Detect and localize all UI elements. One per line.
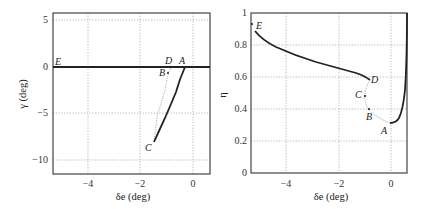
left-xlabel: δe (deg) <box>116 191 151 203</box>
right-point-c-marker <box>364 95 366 97</box>
right-xtick-neg2: −2 <box>334 178 345 189</box>
right-point-b-marker <box>368 108 370 110</box>
right-series-a-upper-branch <box>390 13 407 123</box>
right-xtick-0: 0 <box>389 178 394 189</box>
right-ylabel: η <box>217 92 228 98</box>
left-xtick-neg4: −4 <box>83 178 94 189</box>
left-label-b: B <box>159 67 165 78</box>
left-ytick-neg5: −5 <box>37 107 48 118</box>
left-ylabel: γ (deg) <box>17 79 29 110</box>
left-series-a-c-branch <box>154 67 185 142</box>
right-ytick-0-6: 0.6 <box>235 71 248 82</box>
right-point-e-marker <box>251 23 253 25</box>
left-xtick-neg2: −2 <box>135 178 146 189</box>
left-label-c: C <box>145 142 152 153</box>
right-ytick-0-4: 0.4 <box>235 103 248 114</box>
right-ytick-0-8: 0.8 <box>235 39 248 50</box>
right-label-d: D <box>370 74 379 85</box>
left-point-d-marker <box>170 66 173 69</box>
left-grid <box>53 13 210 174</box>
left-label-e: E <box>54 56 61 67</box>
right-xtick-neg4: −4 <box>281 178 292 189</box>
left-label-d: D <box>164 55 173 66</box>
left-ytick-neg10: −10 <box>32 154 48 165</box>
right-ytick-1: 1 <box>242 7 247 18</box>
right-label-a: A <box>380 125 388 136</box>
left-label-a: A <box>178 55 186 66</box>
right-grid <box>251 13 407 173</box>
left-series-dbc-dotted <box>154 67 171 142</box>
left-axes-frame <box>53 13 210 174</box>
right-xlabel: δe (deg) <box>314 191 349 203</box>
right-ytick-0: 0 <box>242 167 247 178</box>
right-label-c: C <box>355 89 362 100</box>
right-ytick-0-2: 0.2 <box>235 135 248 146</box>
left-point-b-marker <box>167 72 169 74</box>
right-plot: E D C B A 1 0.8 0.6 0.4 0.2 0 −4 −2 0 δe… <box>217 7 407 203</box>
right-axes-frame <box>251 13 407 173</box>
left-xtick-0: 0 <box>191 178 196 189</box>
left-ytick-5: 5 <box>43 14 48 25</box>
right-label-e: E <box>255 20 262 31</box>
left-ytick-0: 0 <box>43 61 48 72</box>
figure: E D A B C 5 0 −5 −10 −4 −2 0 δe (deg) γ … <box>0 0 432 209</box>
left-plot: E D A B C 5 0 −5 −10 −4 −2 0 δe (deg) γ … <box>17 13 210 203</box>
right-series-e-d-branch <box>255 31 370 80</box>
right-label-b: B <box>366 111 372 122</box>
